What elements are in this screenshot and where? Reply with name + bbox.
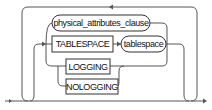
railroad-diagram: physical_attributes_clause TABLESPACE ta… xyxy=(0,0,212,110)
tablespace-arrow-icon xyxy=(117,42,121,47)
node-physical-attributes-clause: physical_attributes_clause xyxy=(52,15,150,31)
entry-arrow-icon xyxy=(9,99,12,103)
physical-attributes-clause-label: physical_attributes_clause xyxy=(53,18,149,28)
tablespace-name-label: tablespace xyxy=(124,39,164,49)
nologging-label: NOLOGGING xyxy=(66,82,118,92)
node-nologging: NOLOGGING xyxy=(66,79,118,94)
loop-arrow-icon xyxy=(109,5,113,10)
exit-arrow-icon xyxy=(203,99,207,104)
logging-label: LOGGING xyxy=(68,62,108,72)
node-logging: LOGGING xyxy=(66,59,110,74)
node-tablespace-name: tablespace xyxy=(121,36,166,52)
tablespace-keyword-label: TABLESPACE xyxy=(56,39,110,49)
node-tablespace-keyword: TABLESPACE xyxy=(52,36,113,52)
main-line xyxy=(5,99,207,104)
tablespace-entry-arrow-icon xyxy=(42,42,46,47)
